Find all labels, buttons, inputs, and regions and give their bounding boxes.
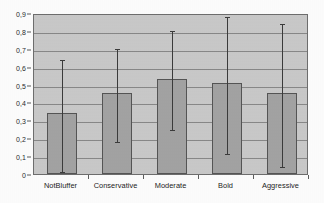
x-axis: NotBlufferConservativeModerateBoldAggres… (33, 181, 308, 195)
gridline (34, 51, 307, 52)
x-axis-tick-mark (253, 175, 254, 179)
y-axis-tick-label: 0,2 (16, 136, 26, 143)
y-axis-tick-mark (27, 103, 31, 104)
y-axis-tick-label: 0,1 (16, 154, 26, 161)
chart-figure: 00,10,20,30,40,50,60,70,80,9 NotBlufferC… (0, 0, 324, 203)
y-axis: 00,10,20,30,40,50,60,70,80,9 (0, 14, 31, 175)
x-axis-tick-label: NotBluffer (44, 181, 77, 190)
x-axis-tick-label: Bold (218, 181, 233, 190)
error-bar-cap-lower (115, 142, 120, 143)
x-axis-tick-mark (198, 175, 199, 179)
x-axis-tick-label: Moderate (155, 181, 187, 190)
x-axis-tick-mark (88, 175, 89, 179)
error-bar-cap-lower (170, 130, 175, 131)
error-bar-cap-upper (115, 49, 120, 50)
error-bar-cap-upper (60, 60, 65, 61)
error-bar-cap-lower (60, 172, 65, 173)
y-axis-tick-label: 0,3 (16, 118, 26, 125)
y-axis-tick-label: 0,8 (16, 28, 26, 35)
error-bar-cap-upper (280, 24, 285, 25)
y-axis-tick-label: 0,4 (16, 100, 26, 107)
y-axis-tick-label: 0,9 (16, 11, 26, 18)
error-bar-line (282, 24, 283, 167)
error-bar-line (117, 49, 118, 142)
y-axis-tick-mark (27, 49, 31, 50)
y-axis-tick-mark (27, 139, 31, 140)
y-axis-tick-mark (27, 175, 31, 176)
x-axis-tick-label: Conservative (94, 181, 138, 190)
y-axis-tick-mark (27, 31, 31, 32)
error-bar-cap-upper (225, 17, 230, 18)
x-axis-tick-mark (308, 175, 309, 179)
y-axis-tick-label: 0,5 (16, 82, 26, 89)
y-axis-tick-label: 0,6 (16, 64, 26, 71)
error-bar-cap-upper (170, 31, 175, 32)
x-axis-tick-mark (143, 175, 144, 179)
error-bar-line (172, 31, 173, 130)
y-axis-tick-mark (27, 67, 31, 68)
y-axis-tick-mark (27, 157, 31, 158)
gridline (34, 33, 307, 34)
error-bar-cap-lower (225, 154, 230, 155)
y-axis-tick-mark (27, 14, 31, 15)
y-axis-tick-mark (27, 121, 31, 122)
y-axis-tick-mark (27, 85, 31, 86)
y-axis-tick-label: 0,7 (16, 46, 26, 53)
error-bar-line (227, 17, 228, 154)
error-bar-line (62, 60, 63, 173)
plot-area (33, 14, 308, 175)
gridline (34, 69, 307, 70)
y-axis-tick-label: 0 (22, 172, 26, 179)
x-axis-tick-label: Aggressive (262, 181, 299, 190)
error-bar-cap-lower (280, 167, 285, 168)
